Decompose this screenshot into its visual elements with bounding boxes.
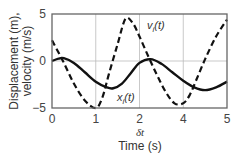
- y-axis-ticks: 50−5: [32, 7, 46, 115]
- line-chart: 50−5 01245 δt Time (s) Displacement (m),…: [0, 0, 238, 153]
- x-tick-label: 5: [224, 112, 231, 126]
- velocity-curve-label: vi(t): [147, 19, 165, 34]
- y-tick-label: −5: [32, 101, 46, 115]
- grid-lines: [52, 14, 227, 108]
- x-axis-title: Time (s): [118, 139, 162, 153]
- x-tick-label: 0: [49, 112, 56, 126]
- y-axis-title: Displacement (m), velocity (m/s): [7, 12, 34, 109]
- delta-t-annotation: δt: [136, 126, 145, 138]
- x-axis-ticks: 01245: [49, 112, 231, 126]
- x-tick-label: 1: [92, 112, 99, 126]
- displacement-curve-label: xi(t): [116, 91, 135, 106]
- x-tick-label: 2: [136, 112, 143, 126]
- y-tick-label: 5: [39, 7, 46, 21]
- y-tick-label: 0: [39, 54, 46, 68]
- y-axis-title-line1: Displacement (m),: [7, 12, 21, 109]
- x-tick-label: 4: [180, 112, 187, 126]
- y-axis-title-line2: velocity (m/s): [20, 26, 34, 97]
